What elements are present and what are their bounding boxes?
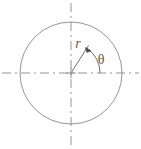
angle-arc-arrowhead (85, 48, 91, 53)
diagram-canvas: r θ (0, 0, 141, 149)
radius-label: r (75, 36, 81, 51)
angle-label: θ (98, 52, 105, 67)
polar-coordinate-diagram: r θ (0, 0, 141, 149)
